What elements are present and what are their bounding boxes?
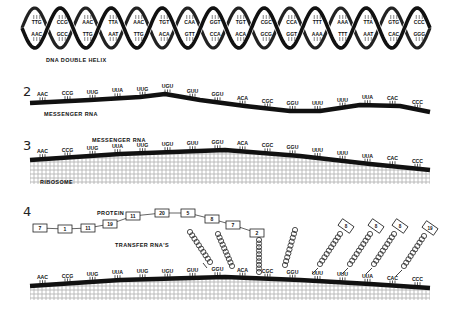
mrna-codon: CGC	[262, 142, 274, 148]
amino-acid-box: 7	[226, 221, 240, 229]
dna-top-base-triplet: TTA	[109, 19, 119, 25]
amino-acid-number: 2	[256, 230, 259, 236]
amino-acid-box: 1	[58, 225, 72, 233]
dna-bottom-base-triplet: GGT	[286, 31, 297, 37]
mrna-codon: UUA	[362, 273, 373, 279]
dna-top-base-triplet: GGT	[210, 19, 221, 25]
dna-bottom-base-triplet: GTT	[185, 31, 195, 37]
dna-top-base-triplet: CCG	[57, 19, 68, 25]
amino-acid-box: 2	[250, 229, 264, 237]
dna-top-base-triplet: AAA	[337, 19, 348, 25]
amino-acid-number: 19	[107, 221, 113, 227]
amino-acid-box: 8	[205, 215, 219, 223]
mrna-codon: CAC	[387, 95, 398, 101]
messenger-rna-caption-3: MESSENGER RNA	[92, 137, 146, 143]
ribosome-caption: RIBOSOME	[40, 179, 73, 185]
dna-top-base-triplet: TTG	[32, 19, 42, 25]
dna-bottom-base-triplet: ACA	[235, 31, 246, 37]
arrow-icon	[396, 270, 402, 276]
dna-bottom-base-triplet: GGG	[413, 31, 425, 37]
mrna-codon: CGC	[262, 98, 274, 104]
mrna-codon: UUU	[337, 150, 348, 156]
mrna-codon: AAC	[37, 274, 48, 280]
mrna-codon: UUG	[87, 89, 99, 95]
amino-acid-box: 11	[81, 224, 95, 232]
mrna-codon: UGU	[162, 83, 174, 89]
dna-bottom-base-triplet: TTG	[134, 31, 144, 37]
mrna-codon: UUU	[337, 271, 348, 277]
mrna-codon: GUU	[187, 88, 199, 94]
mrna-codon: UUG	[137, 268, 149, 274]
mrna-codon: CCC	[412, 276, 423, 282]
section-number-2: 2	[23, 84, 31, 99]
messenger-rna-caption: MESSENGER RNA	[44, 111, 98, 117]
arrow-icon	[203, 263, 207, 268]
transfer-rna-released	[187, 229, 212, 264]
dna-top-base-triplet: TGT	[159, 19, 169, 25]
amino-acid-box: 11	[126, 212, 140, 220]
dna-bottom-base-triplet: TTT	[338, 31, 347, 37]
mrna-codon: UGU	[162, 268, 174, 274]
dna-bottom-base-triplet: CCA	[210, 31, 221, 37]
mrna-codon: UGU	[162, 141, 174, 147]
amino-acid-number: 8	[211, 216, 214, 222]
transfer-rna-bound	[282, 227, 297, 267]
amino-acid-box: 7	[33, 224, 47, 232]
mrna-codon: ACA	[237, 95, 248, 101]
mrna-codon: UUA	[362, 94, 373, 100]
dna-backbone-strand	[22, 8, 430, 48]
amino-acid-number: 8	[375, 224, 378, 229]
dna-to-protein-diagram: TTGAACCCGGCCAACTTGTTAAATAACTTGTGTACACAAG…	[0, 0, 450, 312]
mrna-codon: CCG	[62, 147, 74, 153]
diagram-artwork: TTGAACCCGGCCAACTTGTTAAATAACTTGTGTACACAAG…	[0, 0, 450, 312]
dna-top-base-triplet: AAC	[82, 19, 93, 25]
mrna-codon: UUG	[137, 86, 149, 92]
dna-top-base-triplet: TTT	[313, 19, 322, 25]
dna-top-base-triplet: CGC	[261, 19, 273, 25]
dna-bottom-base-triplet: CAC	[388, 31, 399, 37]
mrna-codon: GGU	[212, 91, 224, 97]
amino-acid-box: 19	[103, 220, 117, 228]
mrna-codon: UUU	[337, 97, 348, 103]
mrna-codon: GGU	[212, 139, 224, 145]
amino-acid-number: 20	[159, 210, 165, 216]
section-number-4: 4	[23, 204, 31, 219]
mrna-codon: UUG	[137, 142, 149, 148]
mrna-codon: GGU	[212, 266, 224, 272]
dna-double-helix-caption: DNA DOUBLE HELIX	[46, 57, 107, 63]
mrna-codon: UUU	[312, 100, 323, 106]
dna-top-base-triplet: TGT	[236, 19, 246, 25]
mrna-codon: GGU	[287, 144, 299, 150]
dna-double-helix: TTGAACCCGGCCAACTTGTTAAATAACTTGTGTACACAAG…	[22, 8, 430, 48]
dna-top-base-triplet: CAA	[184, 19, 195, 25]
amino-acid-number: 7	[232, 222, 235, 228]
amino-acid-number: 7	[39, 225, 42, 231]
mrna-codon: UUU	[312, 147, 323, 153]
mrna-codon: CCG	[62, 273, 74, 279]
mrna-codon: CAC	[387, 155, 398, 161]
amino-acid-box: 20	[155, 209, 169, 217]
mrna-codon: ACA	[237, 267, 248, 273]
dna-bottom-base-triplet: AAA	[312, 31, 323, 37]
amino-acid-number: 8	[345, 224, 348, 229]
amino-acid-number: 5	[187, 210, 190, 216]
dna-bottom-base-triplet: GCC	[57, 31, 69, 37]
mrna-codon: ACA	[237, 140, 248, 146]
mrna-codon: GGU	[287, 100, 299, 106]
amino-acid-number: 8	[399, 224, 402, 229]
messenger-rna-strand: AACCCGUUGUUAUUGUGUGUUGGUACACGCGGUUUUUUUU…	[30, 83, 430, 112]
amino-acid-number: 19	[427, 226, 433, 231]
dna-bottom-base-triplet: TTG	[83, 31, 93, 37]
mrna-codon: AAC	[37, 91, 48, 97]
protein-caption: PROTEIN	[97, 210, 124, 216]
mrna-codon: GGU	[287, 269, 299, 275]
mrna-codon: GUU	[187, 140, 199, 146]
amino-acid-number: 11	[85, 225, 91, 231]
dna-bottom-base-triplet: AAT	[108, 31, 118, 37]
mrna-codon: UUA	[112, 143, 123, 149]
mrna-codon: CCC	[412, 158, 423, 164]
mrna-codon: UUA	[112, 269, 123, 275]
mrna-codon: UUG	[87, 271, 99, 277]
protein-synthesis: AACCCGUUGUUAUUGUGUGUUGGUACACGCGGUUUUUUUU…	[30, 209, 438, 300]
mrna-codon: CCC	[412, 99, 423, 105]
